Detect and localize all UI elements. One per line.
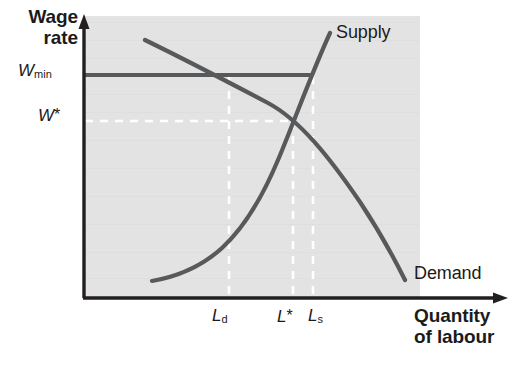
y-tick-w-star-mark: * [54, 106, 60, 123]
y-tick-w-star-symbol: W [38, 106, 54, 125]
x-tick-l-d-subscript: d [221, 313, 227, 325]
labour-market-minimum-wage-chart: Wage rate Quantity of labour Supply Dema… [0, 0, 524, 376]
x-tick-l-star-mark: * [286, 307, 292, 324]
y-tick-label-w-min: Wmin [18, 62, 52, 81]
y-axis-title-line2: rate [6, 28, 78, 49]
x-axis-title-line1: Quantity [414, 306, 494, 327]
x-tick-l-s-subscript: s [317, 313, 323, 325]
x-tick-label-l-d: Ld [212, 307, 228, 326]
x-axis-title: Quantity of labour [414, 306, 494, 347]
y-tick-w-min-symbol: W [18, 61, 34, 80]
x-axis-arrowhead [493, 293, 508, 304]
x-tick-label-l-s: Ls [308, 307, 323, 326]
demand-curve-label: Demand [414, 264, 481, 283]
y-tick-label-w-star: W* [38, 106, 60, 125]
y-axis-title-line1: Wage [6, 7, 78, 28]
supply-curve-label: Supply [336, 23, 390, 42]
y-axis-title: Wage rate [6, 7, 78, 48]
x-tick-label-l-star: L* [277, 307, 293, 326]
x-axis-title-line2: of labour [414, 327, 494, 348]
y-tick-w-min-subscript: min [34, 68, 52, 80]
